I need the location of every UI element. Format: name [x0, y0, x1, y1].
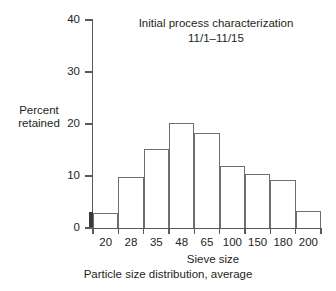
bar: [296, 211, 321, 228]
bar: [169, 123, 194, 228]
y-tick-label: 20: [48, 118, 80, 130]
chart-title: Initial process characterization: [100, 16, 332, 31]
caption-block: Sieve size Particle size distribution, a…: [0, 252, 336, 282]
y-tick-mark: [85, 19, 93, 20]
x-tick-mark: [320, 228, 321, 234]
bar: [144, 149, 169, 228]
y-tick-label-text: 40: [48, 14, 80, 26]
chart-subtitle: 11/1–11/15: [100, 31, 332, 46]
bar: [93, 213, 118, 228]
y-tick-label: 30: [48, 66, 80, 78]
y-tick-label: 40: [48, 14, 80, 26]
y-axis-label-line-1: Percent: [8, 104, 70, 117]
y-tick-mark: [85, 175, 93, 176]
x-tick-label: 200: [291, 236, 325, 249]
y-tick-label-text: 0: [48, 222, 80, 234]
bar: [220, 166, 245, 228]
bar: [118, 177, 143, 228]
y-tick-label-text: 10: [48, 170, 80, 182]
x-tick-mark: [92, 228, 93, 234]
y-tick-mark: [85, 71, 93, 72]
x-tick-mark: [168, 228, 169, 234]
bar: [245, 174, 270, 228]
chart-caption: Particle size distribution, average: [0, 267, 336, 282]
y-tick-label: 10: [48, 170, 80, 182]
x-tick-mark: [295, 228, 296, 234]
x-tick-mark: [270, 228, 271, 234]
x-tick-mark: [219, 228, 220, 234]
x-tick-mark: [194, 228, 195, 234]
bar: [270, 180, 295, 228]
chart-figure: Initial process characterization 11/1–11…: [0, 0, 336, 291]
y-tick-label: 0: [48, 222, 80, 234]
chart-title-block: Initial process characterization 11/1–11…: [100, 16, 332, 46]
y-tick-label-text: 20: [48, 118, 80, 130]
y-tick-mark: [85, 123, 93, 124]
x-tick-mark: [143, 228, 144, 234]
x-axis-title: Sieve size: [0, 252, 336, 267]
bar: [194, 133, 219, 228]
x-tick-mark: [244, 228, 245, 234]
x-tick-mark: [118, 228, 119, 234]
y-tick-label-text: 30: [48, 66, 80, 78]
